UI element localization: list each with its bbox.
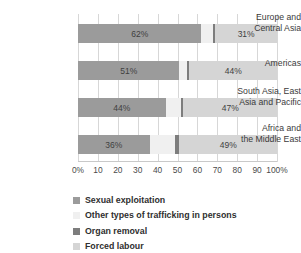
x-tick-label: 100% <box>266 165 287 175</box>
x-axis-ticks: 0%102030405060708090100% <box>78 165 277 179</box>
x-tick-label: 20 <box>113 165 122 175</box>
bar-segment[interactable]: 51% <box>78 61 179 80</box>
stacked-bar-chart: 62%31%51%44%44%47%36%49% Europe andCentr… <box>0 0 301 253</box>
legend-item[interactable]: Other types of trafficking in persons <box>73 209 298 223</box>
legend-label: Sexual exploitation <box>85 196 165 205</box>
x-tick-label: 30 <box>133 165 142 175</box>
x-tick-label: 80 <box>233 165 242 175</box>
x-tick-label: 70 <box>213 165 222 175</box>
bar-value-label: 51% <box>120 66 137 75</box>
category-label-line: Americas <box>227 58 301 69</box>
category-label-line: Africa and <box>227 123 301 134</box>
legend-item[interactable]: Organ removal <box>73 224 298 238</box>
chart-legend: Sexual exploitationOther types of traffi… <box>73 193 298 253</box>
legend-label: Organ removal <box>85 227 147 236</box>
x-tick-label: 40 <box>153 165 162 175</box>
bar-value-label: 36% <box>105 140 122 149</box>
x-tick-label: 10 <box>93 165 102 175</box>
legend-swatch-icon <box>73 228 80 235</box>
bar-segment[interactable] <box>201 24 213 43</box>
category-label: Europe andCentral Asia <box>227 12 301 33</box>
category-label: South Asia, EastAsia and Pacific <box>227 86 301 107</box>
bar-segment[interactable] <box>166 98 182 117</box>
category-label-line: Europe and <box>227 12 301 23</box>
category-label-line: Central Asia <box>227 23 301 34</box>
legend-item[interactable]: Forced labour <box>73 240 298 253</box>
bar-segment[interactable]: 44% <box>78 98 166 117</box>
legend-swatch-icon <box>73 212 80 219</box>
x-tick-label: 0% <box>72 165 84 175</box>
category-label: Africa andthe Middle East <box>227 123 301 144</box>
category-label: Americas <box>227 58 301 69</box>
x-tick-label: 50 <box>173 165 182 175</box>
legend-label: Forced labour <box>85 242 144 251</box>
bar-value-label: 62% <box>131 29 148 38</box>
category-label-line: Asia and Pacific <box>227 97 301 108</box>
bar-segment[interactable]: 62% <box>78 24 201 43</box>
legend-swatch-icon <box>73 243 80 250</box>
x-tick-label: 90 <box>252 165 261 175</box>
legend-label: Other types of trafficking in persons <box>85 211 237 220</box>
legend-item[interactable]: Sexual exploitation <box>73 193 298 207</box>
bar-segment[interactable] <box>179 61 187 80</box>
x-tick-label: 60 <box>193 165 202 175</box>
legend-swatch-icon <box>73 197 80 204</box>
bar-segment[interactable] <box>150 135 176 154</box>
bar-segment[interactable]: 36% <box>78 135 150 154</box>
category-label-line: South Asia, East <box>227 86 301 97</box>
category-label-line: the Middle East <box>227 134 301 145</box>
bar-value-label: 44% <box>113 103 130 112</box>
